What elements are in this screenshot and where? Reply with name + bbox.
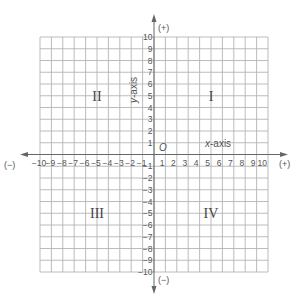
y-tick-label: −5 bbox=[143, 208, 153, 218]
x-tick-label: 10 bbox=[258, 158, 268, 168]
y-tick-label: 9 bbox=[148, 44, 153, 54]
x-axis-label-text: -axis bbox=[210, 138, 231, 149]
quadrant-iii-label: III bbox=[90, 206, 104, 221]
y-tick-label: −4 bbox=[143, 197, 153, 207]
x-tick-label: −3 bbox=[114, 158, 124, 168]
y-axis-negative-sign: (−) bbox=[158, 275, 169, 285]
x-tick-label: −6 bbox=[80, 158, 90, 168]
x-tick-label: −4 bbox=[103, 158, 113, 168]
y-tick-label: 10 bbox=[143, 32, 153, 42]
y-tick-label: −7 bbox=[143, 232, 153, 242]
x-tick-label: 5 bbox=[205, 158, 210, 168]
x-tick-label: 9 bbox=[251, 158, 256, 168]
coordinate-plane: −10−9−8−7−6−5−4−3−2−112345678910 1098765… bbox=[0, 0, 302, 305]
y-tick-label: −2 bbox=[143, 173, 153, 183]
quadrant-ii-label: II bbox=[92, 89, 102, 104]
quadrant-i-label: I bbox=[209, 89, 214, 104]
origin-label: O bbox=[159, 142, 167, 153]
x-tick-label: 1 bbox=[160, 158, 165, 168]
y-tick-label: −10 bbox=[138, 267, 153, 277]
y-tick-label: −6 bbox=[143, 220, 153, 230]
x-tick-label: 3 bbox=[182, 158, 187, 168]
x-tick-label: 8 bbox=[239, 158, 244, 168]
x-tick-label: −2 bbox=[125, 158, 135, 168]
y-tick-label: 6 bbox=[148, 79, 153, 89]
x-tick-label: −7 bbox=[68, 158, 78, 168]
x-axis-negative-sign: (−) bbox=[4, 160, 15, 170]
x-axis-positive-sign: (+) bbox=[279, 159, 290, 169]
axes bbox=[20, 14, 288, 294]
x-axis-positive-arrow-icon bbox=[280, 152, 288, 157]
y-axis-negative-arrow-icon bbox=[152, 286, 157, 294]
y-tick-label: 5 bbox=[148, 91, 153, 101]
x-tick-label: 2 bbox=[171, 158, 176, 168]
y-axis-positive-sign: (+) bbox=[158, 23, 169, 33]
y-tick-label: −9 bbox=[143, 255, 153, 265]
x-tick-label: −10 bbox=[32, 158, 47, 168]
x-tick-label: 6 bbox=[217, 158, 222, 168]
x-tick-label: −8 bbox=[57, 158, 67, 168]
y-tick-label: 8 bbox=[148, 56, 153, 66]
x-tick-label: −9 bbox=[46, 158, 56, 168]
y-tick-label: 3 bbox=[148, 114, 153, 124]
x-tick-label: −5 bbox=[91, 158, 101, 168]
y-tick-label: 4 bbox=[148, 103, 153, 113]
y-tick-label: 2 bbox=[148, 126, 153, 136]
y-tick-label: −1 bbox=[143, 161, 153, 171]
y-axis-positive-arrow-icon bbox=[152, 14, 157, 22]
x-axis-label: x-axis bbox=[204, 138, 231, 149]
x-axis-negative-arrow-icon bbox=[20, 152, 28, 157]
quadrant-iv-label: IV bbox=[204, 206, 219, 221]
y-tick-label: −3 bbox=[143, 185, 153, 195]
y-axis-label-text: -axis bbox=[128, 77, 139, 98]
x-tick-label: 7 bbox=[228, 158, 233, 168]
y-tick-label: 7 bbox=[148, 67, 153, 77]
y-tick-label: −8 bbox=[143, 244, 153, 254]
y-axis-label: y-axis bbox=[128, 77, 139, 104]
x-tick-label: 4 bbox=[194, 158, 199, 168]
y-tick-label: 1 bbox=[148, 138, 153, 148]
